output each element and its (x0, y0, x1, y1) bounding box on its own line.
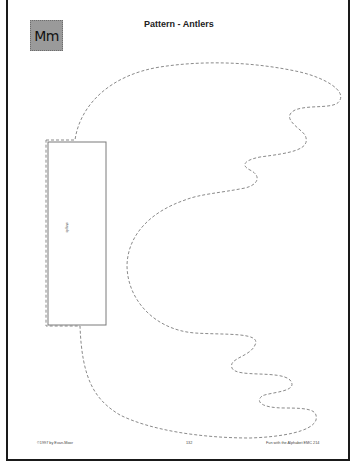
footer-page-number: 132 (186, 441, 192, 445)
footer-book-title: Fun with the Alphabet EMC 214 (266, 441, 319, 445)
worksheet-page: Mm Pattern - Antlers staple ©1997 by Eva… (0, 0, 361, 474)
tab-label: staple (65, 222, 70, 233)
footer-copyright: ©1997 by Evan-Moor (37, 441, 73, 445)
staple-tab (48, 142, 106, 325)
antler-pattern-outline (0, 0, 361, 474)
